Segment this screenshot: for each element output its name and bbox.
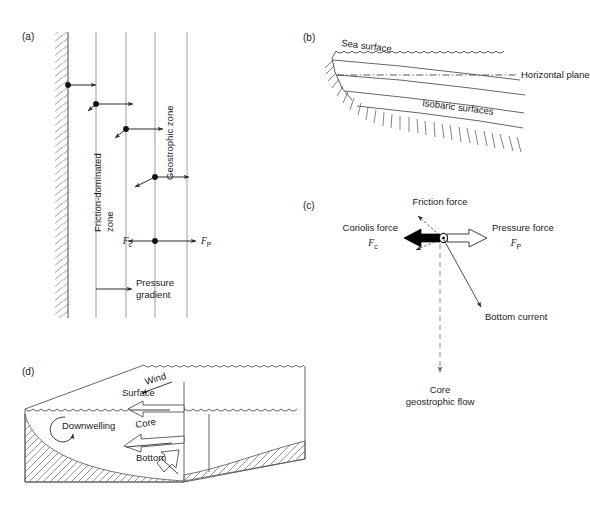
panel-c-bottom-current-label: Bottom current: [485, 311, 548, 322]
panel-a-geostrophic-zone-label: Geostrophic zone: [164, 106, 175, 180]
panel-b-horizontal-plane-label: Horizontal plane: [521, 69, 590, 80]
figure-svg: (a): [0, 0, 590, 515]
panel-c-friction-force-label: Friction force: [413, 196, 468, 207]
panel-d-tag: (d): [22, 366, 34, 377]
panel-c-origin-dot: [442, 237, 445, 240]
panel-c-tag: (c): [303, 200, 315, 211]
panel-a-pressure-gradient-label-line1: Pressure: [136, 277, 174, 288]
panel-b-tag: (b): [303, 32, 315, 43]
panel-c-core-label-line2: geostrophic flow: [406, 396, 475, 407]
panel-a-wall: [55, 32, 68, 318]
panel-a-tag: (a): [22, 31, 34, 42]
panel-c-coriolis-force-label: Coriolis force: [343, 222, 398, 233]
panel-c-pressure-force-label: Pressure force: [492, 222, 554, 233]
panel-a-friction-zone-label-line2: zone: [104, 211, 115, 232]
panel-a-friction-zone-label-line1: Friction-dominated: [92, 153, 103, 232]
figure-container: (a): [0, 0, 590, 515]
figure-background: [0, 0, 590, 515]
panel-a-pressure-gradient-label-line2: gradient: [136, 289, 171, 300]
panel-d-downwelling-label: Downwelling: [62, 420, 115, 431]
panel-c-core-label-line1: Core: [430, 384, 451, 395]
panel-d-bottom-label: Bottom: [136, 452, 166, 463]
panel-d-surface-label: Surface: [122, 387, 155, 398]
